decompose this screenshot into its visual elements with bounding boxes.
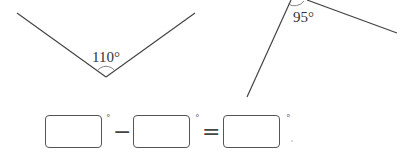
angle-95-label: 95°: [293, 9, 314, 25]
degree-symbol-3: °: [286, 113, 291, 123]
angle-110-figure: 110°: [17, 13, 195, 77]
degree-symbol-1: °: [106, 113, 111, 123]
minus-operator: −: [113, 121, 131, 143]
angle-95-figure: 95°: [247, 0, 397, 97]
answer-box-3[interactable]: [223, 115, 280, 148]
equals-operator: =: [202, 121, 220, 143]
answer-box-2[interactable]: [133, 115, 190, 148]
decorative-dot: [291, 140, 293, 142]
answer-box-1[interactable]: [45, 115, 102, 148]
degree-symbol-2: °: [195, 113, 200, 123]
angle-110-label: 110°: [92, 49, 120, 65]
